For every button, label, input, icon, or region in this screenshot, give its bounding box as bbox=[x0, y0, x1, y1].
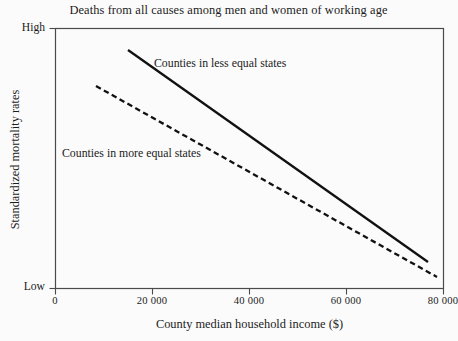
x-tick-label-60000: 60 000 bbox=[331, 295, 361, 306]
y-axis-label: Standardized mortality rates bbox=[8, 70, 23, 250]
series-label-more-equal: Counties in more equal states bbox=[62, 146, 201, 161]
series-line-more-equal bbox=[96, 86, 437, 277]
x-axis-label: County median household income ($) bbox=[55, 317, 444, 332]
series-label-less-equal: Counties in less equal states bbox=[154, 56, 286, 71]
x-tick-label-20000: 20 000 bbox=[137, 295, 167, 306]
x-axis-ticks bbox=[56, 289, 444, 295]
y-tick-label-high: High bbox=[0, 21, 45, 34]
x-tick-label-80000: 80 000 bbox=[428, 295, 458, 306]
chart-title: Deaths from all causes among men and wom… bbox=[0, 3, 457, 18]
y-tick-label-low: Low bbox=[0, 280, 45, 293]
x-tick-label-0: 0 bbox=[52, 295, 58, 306]
x-tick-label-40000: 40 000 bbox=[234, 295, 264, 306]
y-axis-ticks bbox=[50, 29, 56, 289]
